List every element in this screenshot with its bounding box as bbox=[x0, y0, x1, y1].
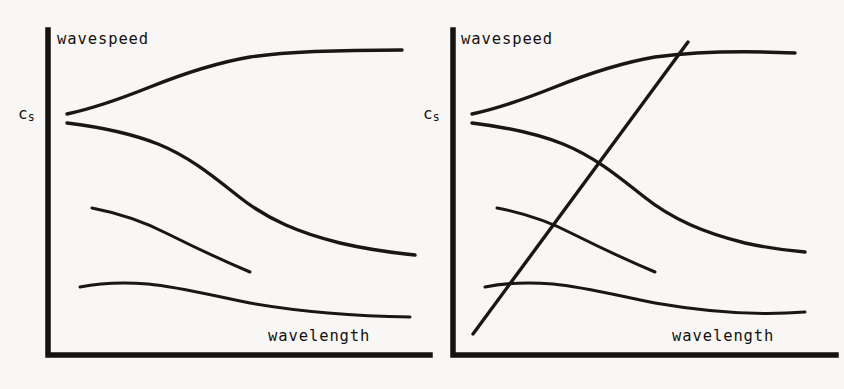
right-panel-cs-tick-label: cs bbox=[423, 106, 440, 124]
left-curve-lowest-branch-flat bbox=[80, 283, 410, 317]
right-panel bbox=[453, 30, 836, 355]
left-curve-upper-branch-rising bbox=[67, 50, 402, 114]
right-panel-y-axis-label: wavespeed bbox=[461, 32, 553, 48]
right-panel-x-axis-label: wavelength bbox=[672, 329, 774, 345]
left-cs-subscript: s bbox=[28, 110, 35, 124]
right-curve-upper-branch-rising bbox=[472, 52, 795, 114]
right-curve-second-branch-falling bbox=[472, 123, 805, 252]
left-panel bbox=[48, 30, 430, 355]
right-curve-third-branch-short bbox=[497, 208, 655, 272]
right-cs-base: c bbox=[423, 104, 433, 123]
right-curve-crossing-straight-mode bbox=[473, 42, 688, 334]
left-cs-base: c bbox=[18, 104, 28, 123]
left-panel-cs-tick-label: cs bbox=[18, 106, 35, 124]
left-panel-x-axis-label: wavelength bbox=[268, 329, 370, 345]
left-panel-y-axis-label: wavespeed bbox=[57, 32, 149, 48]
right-panel-axes bbox=[453, 30, 836, 355]
dispersion-figure: wavespeed wavelength cs wavespeed wavele… bbox=[0, 0, 844, 389]
right-curve-lowest-branch-flat bbox=[485, 283, 805, 313]
left-curve-third-branch-short bbox=[92, 208, 250, 272]
left-panel-axes bbox=[48, 30, 430, 355]
right-cs-subscript: s bbox=[433, 110, 440, 124]
left-curve-second-branch-falling bbox=[67, 123, 415, 255]
